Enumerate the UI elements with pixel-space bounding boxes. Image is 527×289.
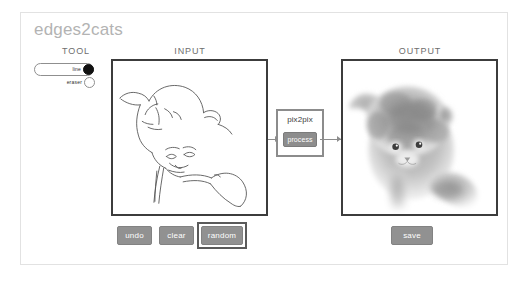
- tool-option-eraser-label: eraser: [67, 80, 82, 85]
- app-window: edges2cats TOOL INPUT OUTPUT line eraser: [20, 12, 508, 265]
- tool-option-line[interactable]: line: [34, 63, 94, 76]
- radio-selected-icon[interactable]: [83, 64, 94, 75]
- column-heading-input: INPUT: [107, 46, 273, 56]
- input-drawing-canvas[interactable]: [111, 59, 268, 216]
- page-title: edges2cats: [34, 20, 123, 40]
- clear-button[interactable]: clear: [159, 226, 194, 245]
- process-button[interactable]: process: [283, 132, 317, 147]
- save-button[interactable]: save: [391, 226, 433, 245]
- random-button[interactable]: random: [201, 226, 243, 245]
- tool-option-line-label: line: [72, 67, 81, 72]
- pix2pix-processor: pix2pix process: [276, 109, 324, 157]
- column-heading-output: OUTPUT: [337, 46, 503, 56]
- undo-button[interactable]: undo: [117, 226, 152, 245]
- tool-selector: line eraser: [34, 63, 106, 95]
- column-heading-tool: TOOL: [43, 46, 109, 56]
- tool-option-eraser[interactable]: eraser: [63, 76, 94, 89]
- processor-label: pix2pix: [278, 115, 322, 124]
- cat-edge-sketch: [113, 61, 266, 214]
- output-image-canvas: [341, 59, 498, 216]
- generated-cat-image: [343, 61, 496, 214]
- radio-unselected-icon[interactable]: [84, 77, 95, 88]
